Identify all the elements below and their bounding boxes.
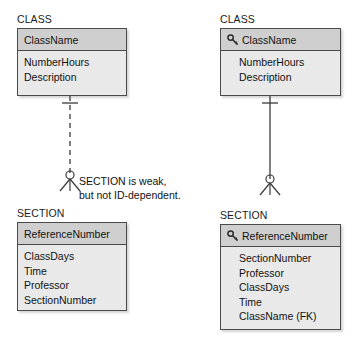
entity-box-class-right[interactable]: ClassName NumberHours Description	[220, 28, 341, 96]
entity-box-section-left[interactable]: ReferenceNumber ClassDays Time Professor…	[17, 222, 127, 311]
crowsfoot-right	[270, 183, 280, 195]
attribute-item: Professor	[227, 267, 334, 281]
entity-header-section-right: ReferenceNumber	[221, 225, 340, 247]
entity-header-section-left: ReferenceNumber	[18, 223, 126, 245]
attribute-item: ClassName (FK)	[227, 310, 334, 324]
entity-label-section-left: SECTION	[17, 207, 64, 219]
entity-attributes-class-left: NumberHours Description	[18, 51, 126, 88]
entity-label-class-right: CLASS	[220, 13, 255, 25]
identifier-classname-left: ClassName	[24, 34, 78, 46]
relationship-connector-right	[248, 95, 292, 205]
crowsfoot-left	[260, 183, 270, 195]
er-diagram-canvas: CLASS ClassName NumberHours Description	[0, 0, 355, 339]
attribute-item: ClassDays	[24, 250, 120, 264]
identifier-referencenumber-right: ReferenceNumber	[242, 230, 328, 242]
attribute-item: NumberHours	[24, 56, 120, 70]
entity-attributes-section-left: ClassDays Time Professor SectionNumber	[18, 245, 126, 311]
identifier-classname-right: ClassName	[242, 34, 296, 46]
attribute-item: Description	[24, 71, 120, 85]
attribute-item: ClassDays	[227, 281, 334, 295]
attribute-item: SectionNumber	[24, 294, 120, 308]
attribute-item: SectionNumber	[227, 252, 334, 266]
attribute-item: Description	[227, 71, 334, 85]
attribute-item: Time	[227, 296, 334, 310]
crowsfoot-left	[60, 179, 70, 191]
entity-attributes-class-right: NumberHours Description	[221, 51, 340, 88]
key-icon	[227, 230, 239, 242]
annotation-section-is-weak: SECTION is weak, but not ID-dependent.	[79, 174, 181, 202]
entity-box-section-right[interactable]: ReferenceNumber SectionNumber Professor …	[220, 224, 341, 330]
entity-header-class-left: ClassName	[18, 29, 126, 51]
annotation-line-1: SECTION is weak,	[79, 174, 181, 188]
entity-label-class-left: CLASS	[17, 13, 52, 25]
attribute-item: Professor	[24, 279, 120, 293]
key-icon	[227, 34, 239, 46]
entity-box-class-left[interactable]: ClassName NumberHours Description	[17, 28, 127, 96]
identifier-referencenumber-left: ReferenceNumber	[24, 228, 110, 240]
attribute-item: Time	[24, 265, 120, 279]
attribute-item: NumberHours	[227, 56, 334, 70]
entity-attributes-section-right: SectionNumber Professor ClassDays Time C…	[221, 247, 340, 328]
annotation-line-2: but not ID-dependent.	[79, 188, 181, 202]
entity-header-class-right: ClassName	[221, 29, 340, 51]
entity-label-section-right: SECTION	[220, 209, 267, 221]
